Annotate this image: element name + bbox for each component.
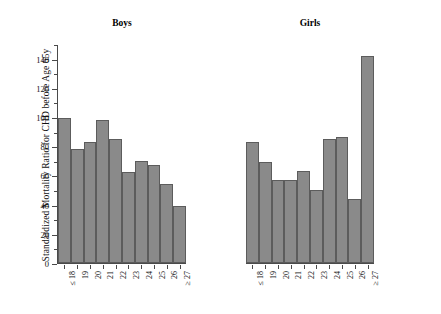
x-tick-label: 25 [158, 271, 167, 279]
x-tick-label: 21 [294, 271, 303, 279]
x-tick [77, 265, 78, 269]
x-tick [103, 265, 104, 269]
x-tick-label: ≤ 18 [68, 271, 77, 285]
bar [310, 190, 323, 263]
x-tick [291, 265, 292, 269]
y-tick-minor [54, 191, 57, 192]
x-tick-label: ≥ 27 [371, 271, 380, 285]
panel-girls: Girls Weight at 1y (lbs) ≤ 1819202122232… [246, 45, 374, 264]
bar [71, 149, 84, 263]
x-tick [265, 265, 266, 269]
y-tick [52, 206, 57, 207]
x-tick-label: 20 [282, 271, 291, 279]
panel-title-girls: Girls [246, 18, 374, 28]
x-tick [368, 265, 369, 269]
x-tick [90, 265, 91, 269]
y-tick [52, 176, 57, 177]
y-tick-label: 60 [25, 171, 49, 181]
chart-figure: Standardized Mortality Ratio for CHD bef… [0, 0, 441, 314]
y-tick-minor [54, 74, 57, 75]
x-tick [167, 265, 168, 269]
bar [173, 206, 186, 263]
x-tick-label: 21 [106, 271, 115, 279]
x-tick [278, 265, 279, 269]
x-tick [116, 265, 117, 269]
x-tick [355, 265, 356, 269]
x-tick-label: 26 [170, 271, 179, 279]
x-tick [154, 265, 155, 269]
y-tick-minor [54, 162, 57, 163]
x-axis-line-boys [58, 263, 186, 264]
x-tick-label: 20 [94, 271, 103, 279]
y-tick-label: 100 [25, 113, 49, 123]
x-tick-label: ≤ 18 [256, 271, 265, 285]
bar [148, 165, 161, 263]
y-tick-label: 20 [25, 230, 49, 240]
y-tick [52, 147, 57, 148]
bar [160, 184, 173, 263]
panel-boys: Boys Weight at 1y (lbs) ≤ 18192021222324… [58, 45, 186, 264]
x-tick [316, 265, 317, 269]
y-tick-label: 140 [25, 55, 49, 65]
x-tick-label: ≥ 27 [183, 271, 192, 285]
bar [323, 139, 336, 263]
y-tick [52, 89, 57, 90]
x-tick-label: 19 [269, 271, 278, 279]
bar [135, 161, 148, 263]
y-tick [52, 60, 57, 61]
x-tick [329, 265, 330, 269]
x-tick-label: 24 [145, 271, 154, 279]
bar [336, 137, 349, 263]
x-tick [342, 265, 343, 269]
plot-area-boys [58, 45, 186, 264]
bar [58, 118, 71, 263]
plot-area-girls [246, 45, 374, 264]
x-tick-label: 23 [320, 271, 329, 279]
bar [246, 142, 259, 263]
x-tick-label: 19 [81, 271, 90, 279]
y-tick-label: 0 [25, 259, 49, 269]
x-tick [180, 265, 181, 269]
bar [297, 171, 310, 263]
y-tick [52, 235, 57, 236]
y-tick-minor [54, 103, 57, 104]
y-tick-label: 40 [25, 201, 49, 211]
bar [84, 142, 97, 263]
y-tick-label: 120 [25, 84, 49, 94]
x-axis-line-girls [246, 263, 374, 264]
y-tick-label: 80 [25, 142, 49, 152]
bar [361, 56, 374, 263]
y-tick [52, 118, 57, 119]
bar [348, 199, 361, 263]
y-tick-minor [54, 220, 57, 221]
y-axis-title: Standardized Mortality Ratio for CHD bef… [41, 30, 51, 280]
x-tick-label: 25 [346, 271, 355, 279]
x-tick-label: 26 [358, 271, 367, 279]
panel-title-boys: Boys [58, 18, 186, 28]
bar [109, 139, 122, 263]
x-tick-label: 23 [132, 271, 141, 279]
x-tick [128, 265, 129, 269]
bar [272, 180, 285, 263]
y-tick-minor [54, 133, 57, 134]
bar [284, 180, 297, 263]
x-tick-label: 22 [307, 271, 316, 279]
x-tick [141, 265, 142, 269]
y-tick-minor [54, 45, 57, 46]
x-tick [252, 265, 253, 269]
x-tick-label: 22 [119, 271, 128, 279]
bar [259, 162, 272, 263]
y-tick-minor [54, 249, 57, 250]
y-tick [52, 264, 57, 265]
bar [122, 172, 135, 263]
x-tick [304, 265, 305, 269]
x-tick [64, 265, 65, 269]
bar [96, 120, 109, 263]
x-tick-label: 24 [333, 271, 342, 279]
